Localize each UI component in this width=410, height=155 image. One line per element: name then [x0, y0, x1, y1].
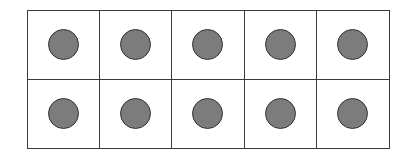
- counter-dot-icon: [265, 29, 296, 60]
- frame-cell: [317, 11, 389, 80]
- counter-dot-icon: [192, 29, 223, 60]
- counter-dot-icon: [192, 98, 223, 129]
- ten-frame: [27, 10, 390, 149]
- counter-dot-icon: [337, 29, 368, 60]
- frame-cell: [172, 80, 244, 149]
- counter-dot-icon: [120, 98, 151, 129]
- counter-dot-icon: [120, 29, 151, 60]
- frame-cell: [245, 11, 317, 80]
- counter-dot-icon: [337, 98, 368, 129]
- frame-cell: [100, 80, 172, 149]
- counter-dot-icon: [48, 29, 79, 60]
- frame-cell: [245, 80, 317, 149]
- frame-cell: [100, 11, 172, 80]
- counter-dot-icon: [48, 98, 79, 129]
- counter-dot-icon: [265, 98, 296, 129]
- frame-cell: [317, 80, 389, 149]
- frame-cell: [28, 80, 100, 149]
- frame-cell: [28, 11, 100, 80]
- frame-cell: [172, 11, 244, 80]
